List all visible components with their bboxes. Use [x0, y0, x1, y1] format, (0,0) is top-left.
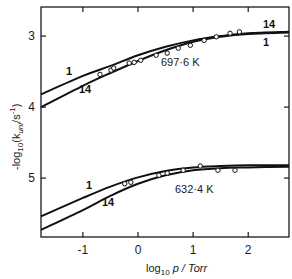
x-tick-label: 1	[190, 243, 197, 257]
x-tick-label: 2	[245, 243, 252, 257]
x-tick-label: 0	[135, 243, 142, 257]
data-point	[127, 61, 131, 65]
y-tick-label: 3	[28, 29, 35, 43]
model-curve	[41, 167, 289, 230]
data-point	[188, 43, 192, 47]
data-point	[165, 171, 169, 175]
curve-label-14-high-right: 14	[263, 18, 276, 30]
temperature-label-high: 697·6 K	[161, 56, 200, 68]
curve-label-14-low: 14	[102, 196, 115, 208]
curve-label-1-low: 1	[86, 179, 92, 191]
data-point	[165, 51, 169, 55]
y-tick-label: 4	[28, 100, 35, 114]
y-tick-label: 5	[28, 171, 35, 185]
data-point	[202, 38, 206, 42]
x-tick-label: -1	[78, 243, 89, 257]
curve-label-1-high: 1	[66, 65, 72, 77]
x-axis-label: log10 p / Torr	[146, 262, 208, 277]
curve-label-1-high-right: 1	[263, 36, 269, 48]
chart: -1012345 1 14 14 1 1 14 697·6 K 632·4 K …	[0, 0, 292, 279]
data-point	[139, 58, 143, 62]
y-axis-label: -log10(kuni/s-1)	[8, 104, 25, 170]
data-point	[157, 173, 161, 177]
data-point	[176, 46, 180, 50]
data-point	[228, 31, 232, 35]
data-point	[233, 168, 237, 172]
experimental-points	[98, 30, 242, 186]
curve-label-14-high: 14	[79, 83, 92, 95]
data-point	[123, 182, 127, 186]
model-curve	[41, 33, 289, 108]
data-point	[214, 35, 218, 39]
axis-ticks	[41, 7, 289, 237]
tick-labels: -1012345	[28, 29, 252, 257]
data-point	[216, 168, 220, 172]
data-point	[112, 66, 116, 70]
data-point	[237, 30, 241, 34]
plot-frame	[41, 7, 289, 237]
data-point	[98, 72, 102, 76]
data-point	[154, 53, 158, 57]
data-point	[132, 60, 136, 64]
data-point	[181, 168, 185, 172]
data-point	[129, 180, 133, 184]
data-point	[198, 164, 202, 168]
temperature-label-low: 632·4 K	[175, 183, 214, 195]
